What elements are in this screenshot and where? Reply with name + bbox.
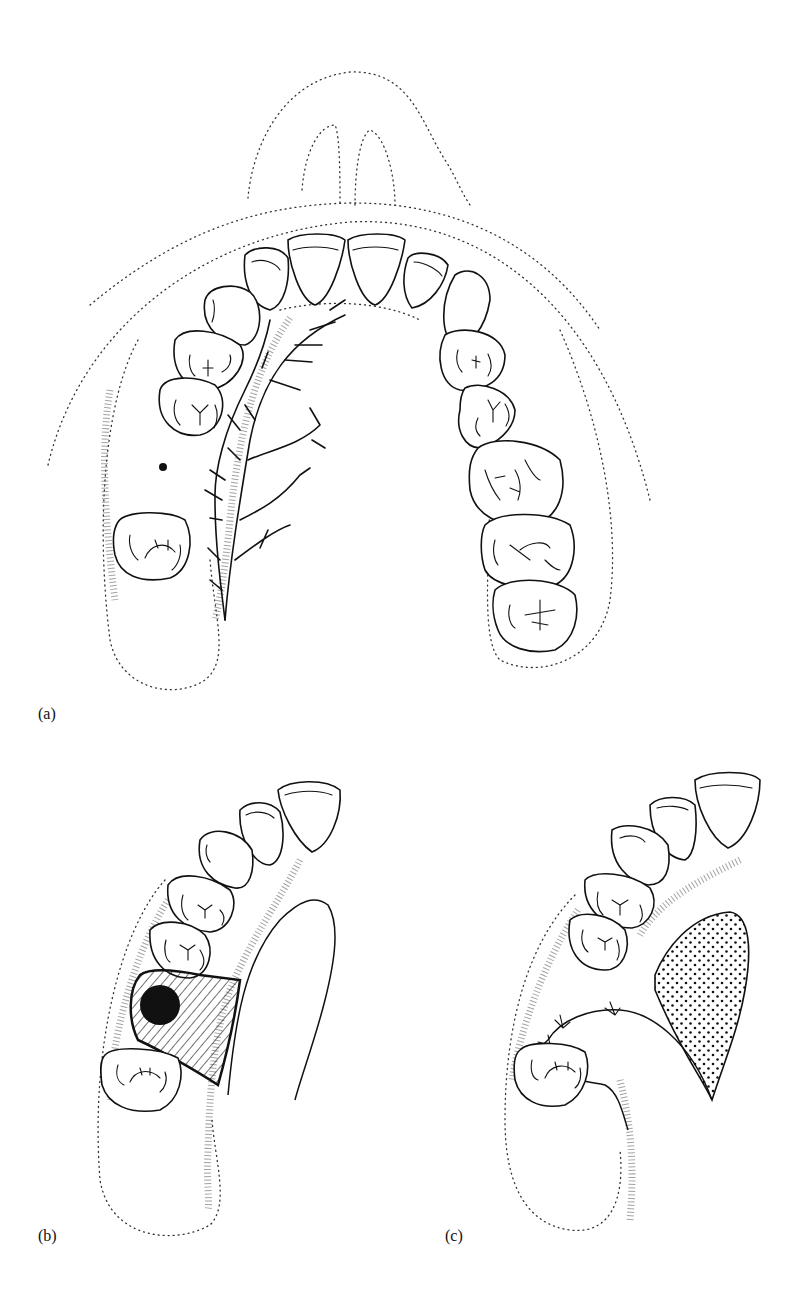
panel-label-a: (a) [38, 705, 56, 723]
dotted-donor-area [655, 912, 749, 1100]
panel-b [98, 782, 340, 1236]
panel-label-c: (c) [445, 1227, 463, 1245]
missing-tooth-dot [159, 463, 167, 471]
dental-figure [0, 0, 800, 1308]
black-defect [140, 985, 180, 1025]
panel-c [505, 773, 760, 1231]
panel-label-b: (b) [38, 1227, 57, 1245]
panel-a [48, 72, 650, 690]
